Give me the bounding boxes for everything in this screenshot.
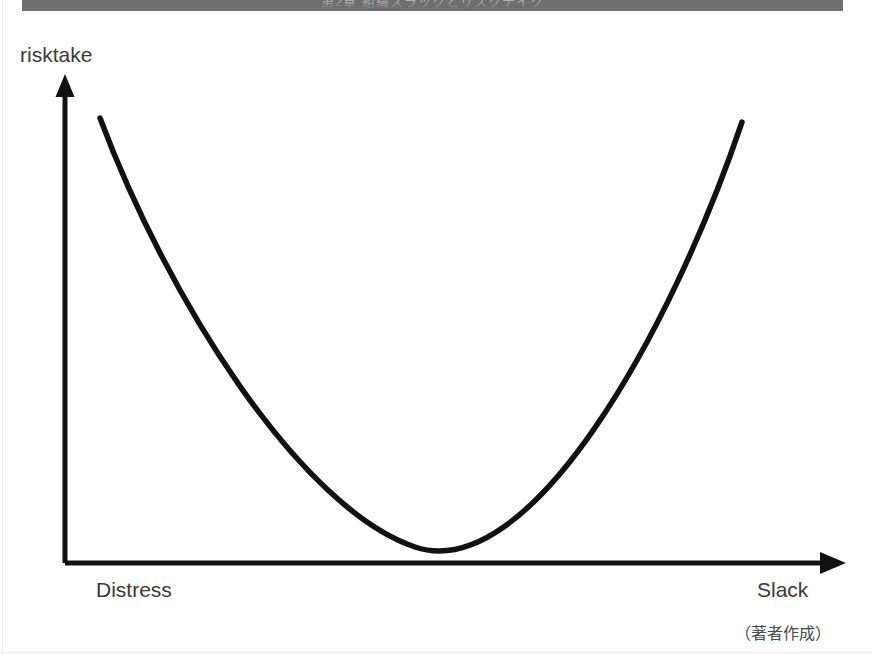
risktake-curve [100, 118, 742, 551]
risktake-curve-chart [0, 0, 872, 654]
x-axis-label-slack: Slack [757, 578, 808, 602]
y-axis-arrowhead-icon [56, 74, 75, 97]
x-axis-label-distress: Distress [96, 578, 172, 602]
x-axis-arrowhead-icon [820, 552, 846, 574]
figure-source-note: （著者作成） [735, 620, 831, 644]
figure-page: 第2章 組織スラックとリスクテイク risktake Distress Slac… [0, 0, 872, 654]
